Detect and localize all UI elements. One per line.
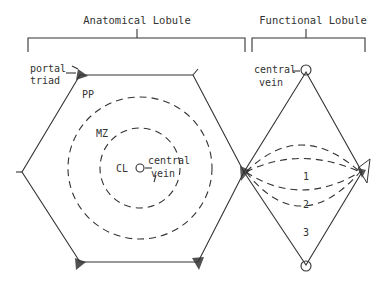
liver-lobule-diagram: Anatomical Lobule Functional Lobule port… xyxy=(0,0,384,291)
portal-triad-icon xyxy=(75,258,86,270)
functional-central-vein-bottom-icon xyxy=(301,261,311,271)
functional-central-vein-label-2: vein xyxy=(259,77,283,88)
central-vein-icon xyxy=(136,164,144,172)
anatomical-lobule-title: Anatomical Lobule xyxy=(83,14,190,26)
zone1-label: 1 xyxy=(303,171,309,182)
functional-central-vein-label: central xyxy=(254,64,296,75)
central-vein-label: central xyxy=(148,155,190,166)
zone-boundary-outer-top xyxy=(246,145,360,172)
anatomical-bracket xyxy=(28,29,245,52)
portal-triad-icon xyxy=(192,257,204,270)
anatomical-hexagon xyxy=(22,75,244,262)
mz-label: MZ xyxy=(96,128,108,139)
functional-lobule-title: Functional Lobule xyxy=(259,14,366,26)
portal-triad-label: portal xyxy=(30,63,66,74)
pp-label: PP xyxy=(82,89,94,100)
cl-label: CL xyxy=(116,163,128,174)
central-vein-label-2: vein xyxy=(151,168,175,179)
vertex-tick xyxy=(193,69,198,75)
functional-bracket xyxy=(252,29,365,52)
zone3-label: 3 xyxy=(303,227,309,238)
zone2-label: 2 xyxy=(303,199,309,210)
portal-triad-icon xyxy=(358,159,370,183)
zone-boundary-inner-top xyxy=(246,159,360,173)
pp-zone-boundary xyxy=(68,97,212,239)
portal-triad-label-2: triad xyxy=(30,75,60,86)
functional-central-vein-icon xyxy=(301,65,311,75)
